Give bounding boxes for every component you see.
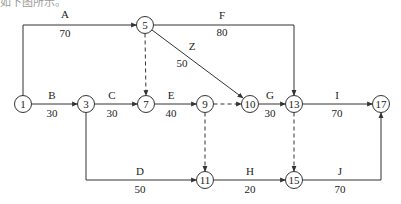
node-number: 15 [289,174,301,186]
activity-duration-E: 40 [166,107,178,119]
node-number: 10 [245,98,257,110]
activity-name-I: I [335,89,339,101]
node-5: 5 [137,17,154,34]
node-11: 11 [197,172,214,189]
activity-duration-H: 20 [245,183,257,195]
node-15: 15 [286,172,303,189]
node-number: 11 [200,174,211,186]
activity-duration-Z: 50 [177,57,189,69]
activity-name-D: D [136,165,144,177]
activity-duration-J: 70 [335,183,347,195]
node-number: 1 [20,98,26,110]
node-number: 7 [143,98,149,110]
activity-duration-F: 80 [217,26,229,38]
activity-name-H: H [246,165,254,177]
activity-name-A: A [61,8,69,20]
activity-duration-A: 70 [60,27,72,39]
node-number: 9 [202,98,208,110]
activity-name-C: C [108,89,115,101]
activity-arrow-A [23,25,137,96]
node-number: 17 [376,98,388,110]
node-7: 7 [138,96,155,113]
activity-name-G: G [266,89,274,101]
activity-name-B: B [48,89,55,101]
node-number: 3 [83,98,89,110]
network-diagram: A70F80Z50B30C30E40G30I70D50H20J70 135791… [0,0,401,204]
activity-name-F: F [219,9,225,21]
activity-name-E: E [168,89,175,101]
activity-name-J: J [338,165,343,177]
event-nodes: 135791013171115 [15,17,390,189]
node-17: 17 [373,96,390,113]
node-10: 10 [242,96,259,113]
activity-arrow-Z [152,30,243,98]
activity-duration-I: 70 [332,107,344,119]
node-1: 1 [15,96,32,113]
activity-name-Z: Z [189,40,196,52]
dummy-arrow-5-7 [145,34,146,96]
node-number: 13 [289,98,301,110]
activity-duration-G: 30 [265,107,277,119]
node-3: 3 [78,96,95,113]
activity-duration-D: 50 [135,183,147,195]
node-13: 13 [286,96,303,113]
node-9: 9 [197,96,214,113]
node-number: 5 [142,19,148,31]
activity-duration-C: 30 [107,107,119,119]
activity-duration-B: 30 [47,107,59,119]
